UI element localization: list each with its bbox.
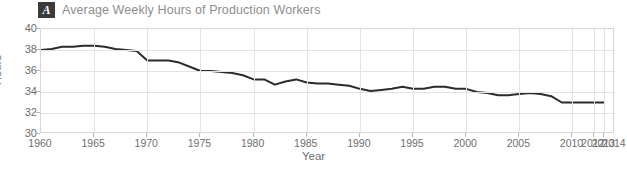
x-tick-mark: [146, 133, 147, 137]
x-tick-mark: [199, 133, 200, 137]
x-tick-mark: [253, 133, 254, 137]
y-axis-label: Hours: [0, 55, 3, 86]
gridline-vertical: [94, 29, 95, 134]
x-tick-label: 2000: [453, 137, 476, 149]
x-tick-label: 1970: [135, 137, 158, 149]
gridline-vertical: [594, 29, 595, 134]
gridline-vertical: [147, 29, 148, 134]
x-tick-mark: [93, 133, 94, 137]
x-tick-label: 1985: [294, 137, 317, 149]
x-tick-mark: [465, 133, 466, 137]
x-axis-label: Year: [0, 150, 627, 162]
x-tick-label: 1960: [28, 137, 51, 149]
x-tick-mark: [412, 133, 413, 137]
x-tick-mark: [571, 133, 572, 137]
y-tick-label: 40: [3, 22, 37, 34]
y-tick-label: 36: [3, 64, 37, 76]
gridline-vertical: [519, 29, 520, 134]
gridline-vertical: [466, 29, 467, 134]
gridline-vertical: [604, 29, 605, 134]
x-tick-label: 2014: [602, 137, 625, 149]
gridline-horizontal: [41, 50, 615, 51]
x-tick-label: 1990: [347, 137, 370, 149]
x-tick-mark: [359, 133, 360, 137]
plot-area: [40, 28, 614, 133]
gridline-horizontal: [41, 113, 615, 114]
gridline-vertical: [360, 29, 361, 134]
line-series-svg: [41, 29, 615, 134]
x-tick-label: 1995: [400, 137, 423, 149]
y-axis-ticks: 403836343230: [0, 28, 37, 133]
gridline-horizontal: [41, 71, 615, 72]
x-tick-label: 1975: [188, 137, 211, 149]
gridline-vertical: [254, 29, 255, 134]
x-tick-label: 2005: [507, 137, 530, 149]
page-title: Average Weekly Hours of Production Worke…: [62, 3, 320, 17]
gridline-vertical: [307, 29, 308, 134]
y-tick-label: 32: [3, 106, 37, 118]
panel-badge: A: [38, 2, 55, 18]
x-tick-label: 1980: [241, 137, 264, 149]
x-tick-mark: [518, 133, 519, 137]
x-tick-mark: [306, 133, 307, 137]
gridline-vertical: [200, 29, 201, 134]
gridline-vertical: [572, 29, 573, 134]
chart-title-row: A Average Weekly Hours of Production Wor…: [38, 1, 320, 19]
y-tick-label: 34: [3, 85, 37, 97]
x-tick-label: 2010: [560, 137, 583, 149]
y-tick-label: 38: [3, 43, 37, 55]
x-tick-label: 1965: [81, 137, 104, 149]
gridline-vertical: [413, 29, 414, 134]
chart-figure: A Average Weekly Hours of Production Wor…: [0, 0, 627, 170]
gridline-horizontal: [41, 92, 615, 93]
